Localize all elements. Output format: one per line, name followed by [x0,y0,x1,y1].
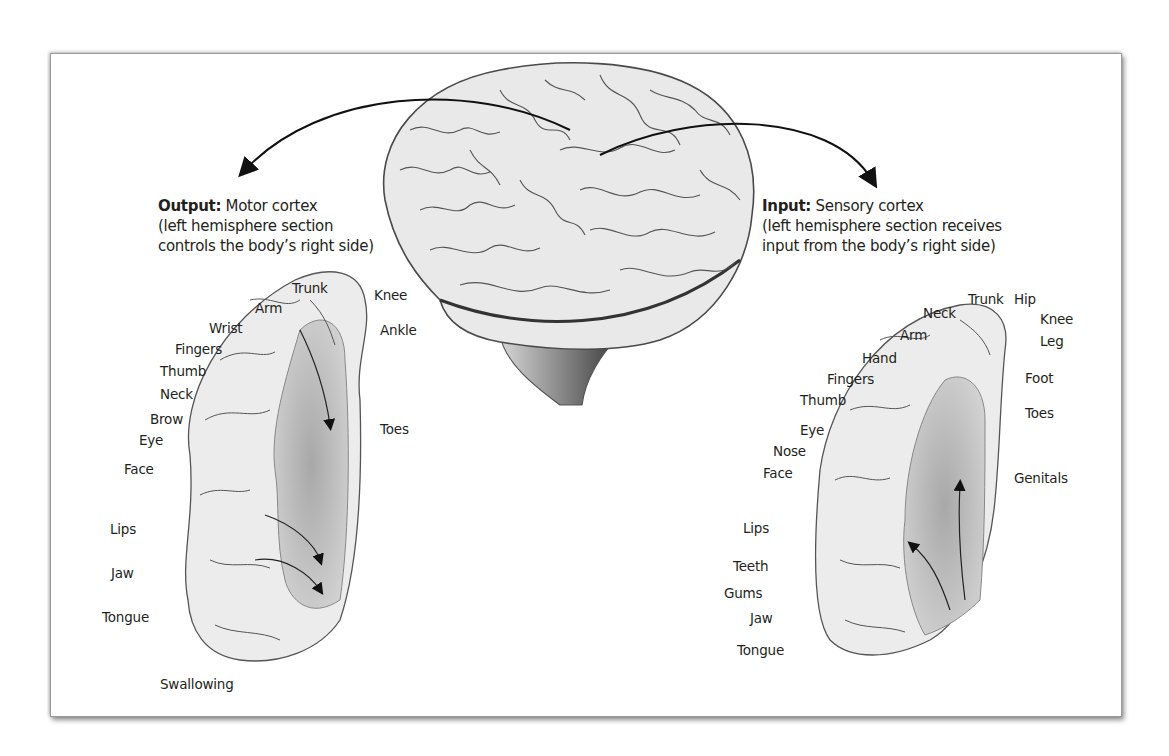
output-desc-line2: (left hemisphere section [158,216,374,236]
sensory-label-fingers: Fingers [827,371,874,387]
input-caption: Input: Sensory cortex (left hemisphere s… [762,196,1002,256]
output-label: Output: [158,197,221,215]
motor-label-thumb: Thumb [160,363,206,379]
motor-label-brow: Brow [150,411,183,427]
sensory-label-trunk: Trunk [968,291,1004,307]
sensory-cortex-slice [816,304,1006,655]
sensory-label-leg: Leg [1040,333,1064,349]
input-title: Sensory cortex [811,197,924,215]
motor-label-neck: Neck [160,386,193,402]
output-desc-line3: controls the body’s right side) [158,236,374,256]
sensory-label-toes: Toes [1025,405,1054,421]
sensory-label-face: Face [763,465,793,481]
motor-label-toes: Toes [380,421,409,437]
motor-label-swallowing: Swallowing [160,676,234,692]
motor-label-eye: Eye [139,432,163,448]
sensory-label-hand: Hand [862,350,897,366]
sensory-label-jaw: Jaw [750,610,773,626]
motor-label-fingers: Fingers [175,341,222,357]
motor-label-jaw: Jaw [111,565,134,581]
sensory-label-neck: Neck [923,305,956,321]
motor-label-lips: Lips [110,521,136,537]
sensory-label-lips: Lips [743,520,769,536]
motor-label-tongue: Tongue [102,609,149,625]
input-desc-line2: (left hemisphere section receives [762,216,1002,236]
motor-label-ankle: Ankle [380,322,417,338]
output-title: Motor cortex [221,197,317,215]
sensory-label-hip: Hip [1014,291,1036,307]
motor-label-wrist: Wrist [209,320,242,336]
sensory-label-gums: Gums [724,585,762,601]
sensory-label-thumb: Thumb [800,392,846,408]
sensory-label-foot: Foot [1025,370,1053,386]
sensory-label-eye: Eye [800,422,824,438]
input-label: Input: [762,197,811,215]
output-caption: Output: Motor cortex (left hemisphere se… [158,196,374,256]
motor-label-face: Face [124,461,154,477]
motor-label-knee: Knee [374,287,407,303]
sensory-label-teeth: Teeth [733,558,768,574]
brain-illustration [384,63,754,405]
sensory-label-nose: Nose [773,443,806,459]
sensory-label-tongue: Tongue [737,642,784,658]
input-desc-line3: input from the body’s right side) [762,236,1002,256]
motor-label-arm: Arm [255,300,282,316]
motor-label-trunk: Trunk [292,280,328,296]
sensory-label-genitals: Genitals [1014,470,1068,486]
sensory-label-knee: Knee [1040,311,1073,327]
sensory-label-arm: Arm [900,327,927,343]
